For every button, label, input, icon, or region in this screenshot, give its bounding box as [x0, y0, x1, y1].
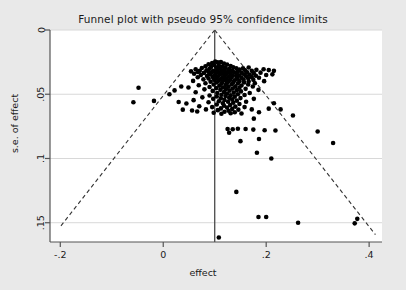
x-tick-label: -.2: [54, 249, 67, 260]
y-tick-label: .1: [36, 154, 47, 163]
y-axis-ticks: 0.05.1.15: [36, 27, 51, 230]
y-tick-label: 0: [36, 27, 47, 33]
x-tick-label: .4: [365, 249, 374, 260]
x-tick-label: 0: [160, 249, 166, 260]
plot-canvas: -.20.2.4 0.05.1.15: [0, 0, 406, 290]
y-tick-label: .05: [36, 87, 47, 102]
y-tick-label: .15: [36, 215, 47, 230]
funnel-plot-figure: Funnel plot with pseudo 95% confidence l…: [0, 0, 406, 290]
x-axis-ticks: -.20.2.4: [54, 242, 374, 260]
x-tick-label: .2: [262, 249, 271, 260]
